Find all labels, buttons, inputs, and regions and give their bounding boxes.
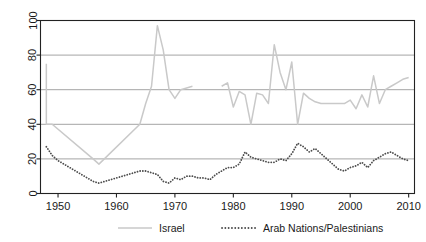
legend: IsraelArab Nations/Palestinians [118, 222, 383, 234]
y-tick-label-60: 60 [27, 84, 39, 96]
legend-label-israel: Israel [159, 222, 185, 234]
y-tick-label-100: 100 [27, 11, 39, 29]
y-tick-label-80: 80 [27, 49, 39, 61]
x-tick-label-2000: 2000 [338, 200, 362, 212]
line-chart-svg: 0204060801001950196019701980199020002010… [0, 0, 426, 242]
x-tick-label-1970: 1970 [163, 200, 187, 212]
x-tick-label-2010: 2010 [396, 200, 420, 212]
y-tick-label-40: 40 [27, 118, 39, 130]
plot-background [41, 21, 415, 194]
x-tick-label-1960: 1960 [104, 200, 128, 212]
y-tick-label-20: 20 [27, 153, 39, 165]
y-tick-label-0: 0 [27, 190, 39, 196]
chart-container: 0204060801001950196019701980199020002010… [0, 0, 426, 242]
legend-label-arab-nations-palestinians: Arab Nations/Palestinians [263, 222, 383, 234]
x-tick-label-1980: 1980 [221, 200, 245, 212]
x-tick-label-1950: 1950 [46, 200, 70, 212]
x-axis: 1950196019701980199020002010 [46, 194, 421, 212]
x-tick-label-1990: 1990 [280, 200, 304, 212]
y-axis: 020406080100 [27, 11, 41, 196]
